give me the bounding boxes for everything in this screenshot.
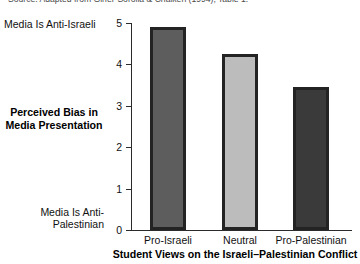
y-tick-label: 3 [106,101,122,111]
source-note: Source: Adapted from Giner-Sorolla & Cha… [8,0,352,5]
bar-pro-palestinian [293,87,329,230]
y-tick-label: 5 [106,18,122,28]
x-category-label: Pro-Palestinian [266,234,356,246]
y-axis-title-line1: Perceived Bias in [2,106,106,119]
bar-neutral [222,54,258,230]
y-axis-low-anchor-label: Media Is Anti- Palestinian [4,206,104,230]
y-axis-title: Perceived Bias in Media Presentation [2,106,106,132]
y-axis-high-anchor-label: Media Is Anti-Israeli [4,18,104,30]
y-axis-low-anchor-line1: Media Is Anti- [4,206,104,218]
y-tick-mark [126,230,131,231]
y-tick-label: 1 [106,184,122,194]
y-tick-label: 0 [106,225,122,235]
bar-pro-israeli [150,27,186,230]
bar-chart-figure: Source: Adapted from Giner-Sorolla & Cha… [0,0,360,264]
y-tick-label: 4 [106,59,122,69]
x-axis-title: Student Views on the Israeli–Palestinian… [110,248,360,261]
y-tick-label: 2 [106,142,122,152]
x-axis-line [131,230,352,231]
y-axis-title-line2: Media Presentation [2,119,106,132]
plot-area [131,22,352,230]
y-axis-low-anchor-line2: Palestinian [4,218,104,230]
